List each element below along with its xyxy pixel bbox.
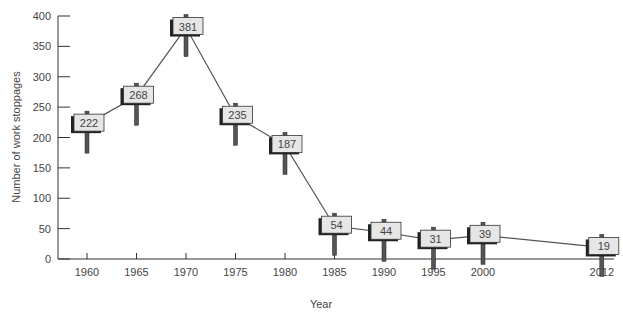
data-value-label: 39 [479,228,491,240]
x-tick-label: 1965 [124,266,148,278]
data-value-label: 44 [380,225,392,237]
work-stoppages-line-chart: 050100150200250300350400 196019651970197… [0,0,623,324]
data-value-label: 222 [80,117,98,129]
x-tick-label: 1990 [372,266,396,278]
data-line [87,28,602,248]
signpost-marker: 187 [269,132,302,174]
y-tick-label: 400 [33,10,51,22]
data-value-label: 31 [429,233,441,245]
data-value-label: 19 [598,240,610,252]
data-value-label: 381 [179,21,197,33]
signpost-marker: 235 [220,103,253,145]
signpost-marker: 222 [71,111,104,153]
y-tick-label: 150 [33,162,51,174]
x-tick-label: 1980 [273,266,297,278]
x-axis: 1960196519701975198019851990199520002012 [58,253,614,278]
y-tick-label: 0 [45,253,51,265]
signpost-marker: 31 [418,227,451,269]
y-tick-label: 350 [33,40,51,52]
data-value-label: 187 [278,138,296,150]
signpost-marker: 39 [467,222,500,264]
y-tick-label: 300 [33,71,51,83]
signpost-marker: 54 [319,213,352,255]
x-tick-label: 1985 [322,266,346,278]
y-tick-label: 200 [33,132,51,144]
x-tick-label: 1960 [75,266,99,278]
y-tick-label: 50 [39,223,51,235]
x-axis-title: Year [310,298,333,310]
data-value-label: 268 [129,89,147,101]
signpost-marker: 44 [368,219,401,261]
x-tick-label: 2000 [471,266,495,278]
data-value-label: 235 [228,109,246,121]
x-tick-label: 1970 [174,266,198,278]
data-point-markers: 2222683812351875444313919 [71,15,619,277]
y-axis: 050100150200250300350400 [33,10,70,265]
signpost-marker: 268 [121,83,154,125]
y-tick-label: 100 [33,192,51,204]
y-tick-label: 250 [33,101,51,113]
y-axis-title: Number of work stoppages [10,71,22,203]
data-value-label: 54 [330,219,342,231]
x-tick-label: 1975 [223,266,247,278]
